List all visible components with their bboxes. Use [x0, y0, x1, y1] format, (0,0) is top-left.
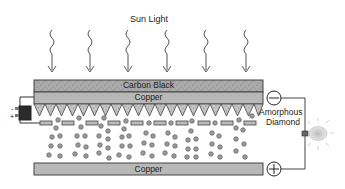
positive-terminal-icon [267, 162, 281, 176]
battery-icon [19, 106, 31, 120]
amorphous-diamond-tips [34, 104, 263, 116]
solar-cell-diagram: - + [0, 0, 345, 189]
wavy-arrow-icon [124, 30, 132, 72]
amorphous-diamond-label-line2: Diamond [266, 117, 300, 127]
sunlight-title: Sun Light [130, 14, 168, 24]
wavy-arrow-icon [202, 30, 210, 72]
battery-plus: + [10, 113, 14, 120]
wavy-arrow-icon [48, 30, 56, 72]
amorphous-diamond-label-line1: Amorphous [259, 107, 302, 117]
wavy-arrow-icon [242, 30, 250, 72]
carbon-black-label: Carbon Black [34, 80, 263, 90]
wavy-arrow-icon [86, 30, 94, 72]
wavy-arrow-icon [163, 30, 171, 72]
bottom-copper-label: Copper [34, 164, 263, 174]
light-bulb-icon [302, 118, 334, 150]
top-copper-label: Copper [34, 92, 263, 102]
sunlight-arrows [48, 30, 250, 72]
negative-terminal-icon [267, 91, 281, 105]
battery-minus: - [11, 105, 14, 112]
